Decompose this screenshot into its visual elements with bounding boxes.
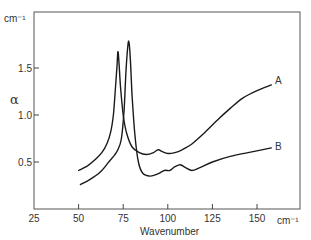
absorption-chart: 255075100125150 0.51.01.5 cm⁻¹ α cm⁻¹ Wa… bbox=[0, 0, 311, 240]
x-tick-label: 100 bbox=[159, 213, 176, 224]
x-tick-label: 75 bbox=[118, 213, 130, 224]
y-tick-label: 1.5 bbox=[18, 63, 32, 74]
curve-label-b: B bbox=[275, 141, 282, 152]
curve-b bbox=[80, 41, 271, 185]
x-axis-title: Wavenumber bbox=[140, 226, 200, 237]
plot-frame bbox=[34, 12, 300, 209]
y-axis-unit: cm⁻¹ bbox=[4, 13, 26, 24]
y-axis-ticks: 0.51.01.5 bbox=[18, 63, 39, 168]
y-axis-title: α bbox=[10, 92, 19, 107]
x-axis-unit: cm⁻¹ bbox=[277, 215, 299, 226]
x-axis-ticks: 255075100125150 bbox=[28, 204, 265, 224]
curve-label-a: A bbox=[275, 75, 282, 86]
y-tick-label: 1.0 bbox=[18, 110, 32, 121]
curves bbox=[79, 41, 272, 185]
curve-labels: AB bbox=[275, 75, 282, 152]
x-tick-label: 50 bbox=[73, 213, 85, 224]
curve-a bbox=[79, 52, 272, 171]
x-tick-label: 25 bbox=[28, 213, 40, 224]
x-tick-label: 125 bbox=[204, 213, 221, 224]
y-tick-label: 0.5 bbox=[18, 157, 32, 168]
x-tick-label: 150 bbox=[249, 213, 266, 224]
